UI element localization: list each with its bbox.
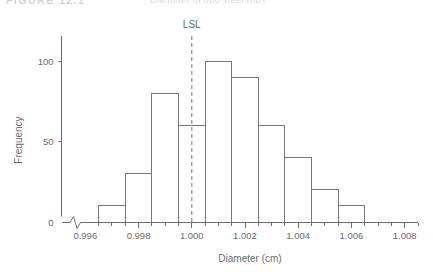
y-axis-group: 050100 Frequency xyxy=(13,36,62,228)
y-tick-label: 100 xyxy=(38,56,54,67)
histogram-bar xyxy=(232,77,259,222)
lsl-annotation-group: LSL xyxy=(183,19,201,222)
x-tick-label: 0.996 xyxy=(73,230,97,241)
y-ticks-group: 050100 xyxy=(38,56,62,228)
histogram-bar xyxy=(205,61,232,222)
x-tick-label: 1.008 xyxy=(393,230,417,241)
bars-group xyxy=(99,61,365,222)
x-axis-break-icon xyxy=(70,217,86,229)
histogram-bar xyxy=(99,206,126,223)
x-ticks-group xyxy=(99,223,418,228)
x-tick-label: 1.006 xyxy=(340,230,364,241)
figure-container: FIGURE 12.1 Diameter of 600 steel rods L… xyxy=(0,0,433,280)
y-tick-label: 0 xyxy=(48,217,53,228)
x-tick-label: 1.000 xyxy=(180,230,204,241)
x-tick-label: 1.004 xyxy=(286,230,310,241)
lsl-label: LSL xyxy=(183,19,201,30)
x-axis-group: 0.9960.9981.0001.0021.0041.0061.008 Diam… xyxy=(62,217,419,265)
x-tick-label: 0.998 xyxy=(127,230,151,241)
y-axis-title: Frequency xyxy=(13,116,24,163)
histogram-bar xyxy=(258,126,285,223)
x-tick-label: 1.002 xyxy=(233,230,257,241)
y-tick-label: 50 xyxy=(43,136,54,147)
histogram-chart: LSL 050100 Frequency 0.9960.9981.0001.00… xyxy=(0,0,433,280)
histogram-bar xyxy=(152,93,179,222)
x-ticklabels-group: 0.9960.9981.0001.0021.0041.0061.008 xyxy=(73,230,416,241)
histogram-bar xyxy=(338,206,365,223)
x-axis-title: Diameter (cm) xyxy=(218,253,281,264)
histogram-bar xyxy=(125,174,152,223)
histogram-bar xyxy=(312,190,339,223)
histogram-bar xyxy=(285,158,312,223)
